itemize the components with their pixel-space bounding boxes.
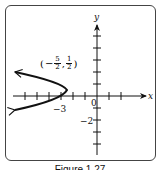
paren-close: ): [73, 58, 77, 69]
frac-den: 2: [67, 64, 71, 71]
plot-svg: [0, 0, 160, 170]
y-axis-label: y: [94, 13, 99, 22]
frac-den: 2: [55, 64, 59, 71]
fraction-y: 1 2: [66, 56, 72, 71]
paren-open: (: [40, 58, 44, 69]
fraction-x: 5 2: [54, 56, 60, 71]
y-tick-label-neg2: −2: [80, 117, 93, 126]
minus-sign: −: [45, 58, 53, 69]
vertex-annotation: ( − 5 2 , 1 2 ): [40, 56, 77, 71]
comma: ,: [62, 58, 65, 69]
x-tick-label-neg3: −3: [53, 105, 66, 114]
figure-caption: Figure 1.27: [0, 164, 160, 170]
figure: y x 0 −3 −2 ( − 5 2 , 1 2 ) Figure 1.27: [0, 0, 160, 170]
origin-label: 0: [91, 99, 97, 108]
x-axis-label: x: [148, 92, 153, 101]
